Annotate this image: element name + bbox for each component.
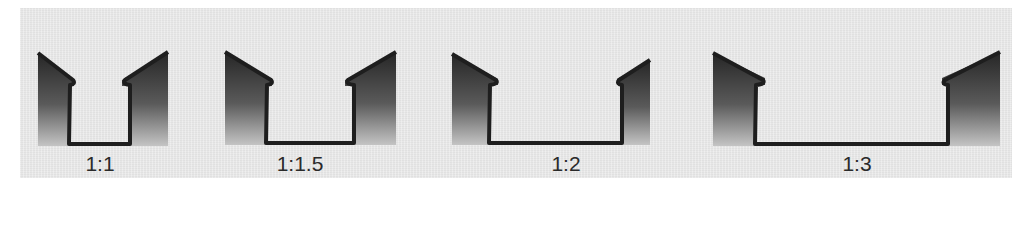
ratio-label-4: 1:3 [842,152,871,176]
channel-panel-1-1-5 [225,52,396,145]
ratio-label-2: 1:1.5 [277,152,324,176]
channel-panel-1-2 [452,54,650,145]
ratio-label-1: 1:1 [85,152,114,176]
channel-panel-1-3 [713,52,1000,146]
ratio-label-3: 1:2 [551,152,580,176]
channel-panel-1-1 [38,52,168,146]
